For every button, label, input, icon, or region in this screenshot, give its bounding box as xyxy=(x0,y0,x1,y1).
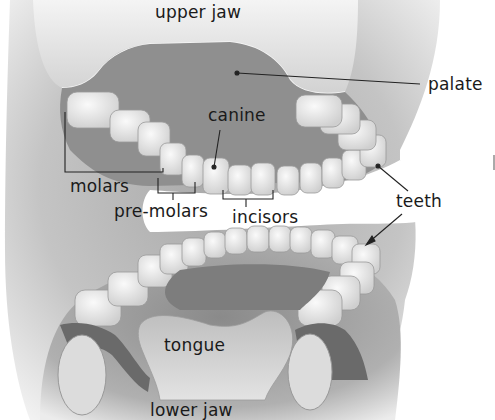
mouth-diagram: upper jaw palate canine molars pre-molar… xyxy=(0,0,495,420)
label-incisors: incisors xyxy=(232,209,298,226)
label-tongue: tongue xyxy=(164,337,225,354)
label-pre-molars: pre-molars xyxy=(114,203,208,220)
label-canine: canine xyxy=(208,107,266,124)
label-molars: molars xyxy=(70,178,129,195)
label-teeth: teeth xyxy=(396,193,442,210)
label-lower-jaw: lower jaw xyxy=(150,402,233,419)
label-palate: palate xyxy=(428,76,483,93)
label-upper-jaw: upper jaw xyxy=(155,4,241,21)
